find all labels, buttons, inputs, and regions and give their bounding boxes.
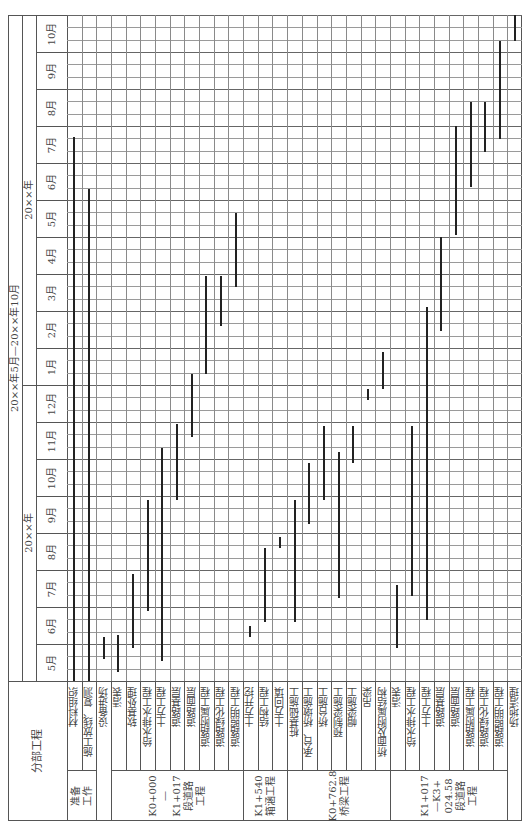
row-divider [449, 681, 450, 770]
gantt-bar [323, 426, 325, 500]
header-divider [22, 15, 23, 681]
task-label: 土方工程 [155, 687, 169, 727]
group-divider [507, 681, 508, 821]
row-divider [317, 681, 318, 770]
row-gridline [170, 15, 171, 681]
gantt-bar [484, 102, 486, 152]
month-gridline [67, 496, 522, 497]
month-gridline [67, 459, 522, 460]
row-divider [155, 681, 156, 770]
group-label: K1+017 —K3+ 024.58 段道路 工程 [419, 766, 479, 826]
row-divider [184, 681, 185, 770]
gantt-bar [499, 41, 501, 139]
task-label: 桩基础施工 [288, 687, 302, 737]
month-label: 8月 [46, 534, 58, 570]
group-divider [96, 681, 97, 821]
month-label: 1月 [46, 349, 58, 385]
row-gridline [111, 15, 112, 681]
subdivision-gridline [67, 249, 522, 250]
gantt-bar [88, 189, 90, 681]
group-label: K0+762.8 桥梁工程 [327, 766, 351, 826]
task-label: 场地清理 [508, 687, 522, 727]
task-label: 清表 [390, 687, 404, 707]
row-gridline [214, 15, 215, 681]
month-gridline [67, 385, 522, 386]
row-gridline [302, 15, 303, 681]
row-divider [302, 681, 303, 770]
month-label: 2月 [46, 312, 58, 348]
gantt-bar [220, 276, 222, 326]
task-label: 结构工程 [258, 687, 272, 727]
row-divider [419, 681, 420, 770]
task-label: 设备进场 [97, 687, 111, 727]
row-gridline [199, 15, 200, 681]
month-gridline [67, 52, 522, 53]
row-gridline [243, 15, 244, 681]
month-gridline [67, 15, 522, 16]
gantt-bar [264, 548, 266, 622]
task-label: 承台、桥墩施工 [302, 687, 316, 757]
task-label: 道路照明工程 [229, 687, 243, 747]
gantt-bar [279, 537, 281, 548]
month-label: 5月 [46, 645, 58, 681]
month-label: 11月 [46, 423, 58, 459]
overall-period-label: 20××年5月—20××年10月 [9, 268, 21, 428]
subdivision-gridline [67, 175, 522, 176]
subdivision-gridline [67, 397, 522, 398]
subdivision-gridline [67, 114, 522, 115]
task-label: 桥面及附属结构 [376, 687, 390, 757]
row-divider [214, 681, 215, 770]
row-gridline [507, 15, 508, 681]
task-label: 施工放线、复测 [82, 687, 96, 757]
row-gridline [228, 15, 229, 681]
gantt-bar [308, 463, 310, 524]
task-label: 道路面层 [449, 687, 463, 727]
subdivision-gridline [67, 225, 522, 226]
subdivision-gridline [67, 447, 522, 448]
month-gridline [67, 126, 522, 127]
row-divider [493, 681, 494, 770]
month-gridline [67, 644, 522, 645]
row-divider [478, 681, 479, 770]
task-label: 土方回填 [273, 687, 287, 727]
subdivision-gridline [67, 27, 522, 28]
subdivision-gridline [67, 360, 522, 361]
group-divider [287, 681, 288, 821]
task-label: 道路基层 [434, 687, 448, 727]
row-gridline [184, 15, 185, 681]
gantt-bar [73, 137, 75, 681]
subdivision-gridline [67, 40, 522, 41]
group-divider [67, 681, 68, 821]
section-header: 分部工程 [32, 711, 44, 791]
gantt-bar [411, 426, 413, 596]
row-gridline [346, 15, 347, 681]
row-divider [361, 681, 362, 770]
gantt-bar [338, 452, 340, 598]
month-gridline [67, 163, 522, 164]
year-label-1: 20××年 [23, 493, 35, 573]
subdivision-gridline [67, 151, 522, 152]
gantt-bar [147, 500, 149, 611]
task-label: 道路面层 [185, 687, 199, 727]
row-divider [258, 681, 259, 770]
task-label: 材料组织 [67, 687, 81, 727]
month-gridline [67, 89, 522, 90]
row-divider [346, 681, 347, 770]
subdivision-gridline [67, 632, 522, 633]
grid-bottom-line [8, 681, 522, 682]
row-divider [228, 681, 229, 770]
subdivision-gridline [67, 656, 522, 657]
subdivision-gridline [67, 212, 522, 213]
row-gridline [96, 15, 97, 681]
month-label: 3月 [46, 275, 58, 311]
gantt-bar [367, 389, 369, 400]
year-label-2: 20××年 [23, 160, 35, 240]
row-gridline [434, 15, 435, 681]
row-gridline [272, 15, 273, 681]
task-label: 给水排水工程 [405, 687, 419, 747]
row-divider [405, 681, 406, 770]
gantt-bar [294, 500, 296, 622]
month-label: 6月 [46, 164, 58, 200]
year-divider [22, 385, 36, 386]
month-gridline [67, 348, 522, 349]
